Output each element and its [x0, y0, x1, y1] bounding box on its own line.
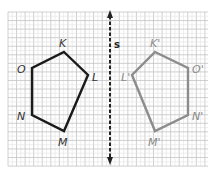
mirror-line-label: s	[114, 39, 120, 50]
vertex-label-0: K	[59, 37, 67, 50]
image-vertex-label-2: N'	[192, 110, 203, 123]
image-vertex-label-3: M'	[148, 136, 161, 149]
vertex-label-2: M	[58, 136, 68, 149]
vertex-label-4: O	[17, 63, 26, 76]
grid	[8, 12, 208, 166]
vertex-label-1: L	[92, 71, 98, 84]
vertex-label-3: N	[17, 110, 25, 123]
reflection-diagram: KLMNO K'O'N'M'L' s	[0, 0, 216, 177]
image-vertex-label-4: L'	[121, 71, 130, 84]
image-vertex-label-0: K'	[150, 37, 160, 50]
image-vertex-label-1: O'	[192, 63, 204, 76]
